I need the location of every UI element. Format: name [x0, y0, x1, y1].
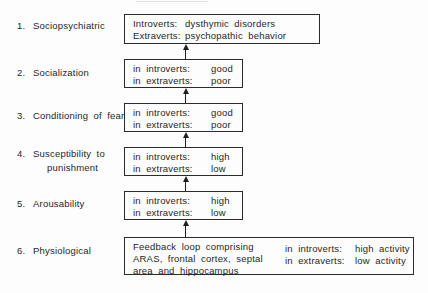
row-value: dysthymic disorders	[185, 18, 275, 30]
box-row: in introverts: high	[125, 195, 242, 207]
row-key: in extraverts:	[285, 255, 355, 267]
row-value: poor	[211, 75, 231, 87]
arrow-shaft	[185, 50, 186, 59]
box-row: Extraverts: psychopathic behavior	[125, 30, 319, 42]
row-key: in introverts:	[285, 243, 355, 255]
row-key: in extraverts:	[133, 119, 211, 131]
feedback-line: ARAS, frontal cortex, septal	[133, 253, 263, 265]
box-sociopsychiatric: Introverts: dysthymic disorders Extraver…	[124, 14, 320, 44]
box-conditioning-of-fear: in introverts: good in extraverts: poor	[124, 103, 243, 132]
level-number: 2.	[17, 67, 33, 79]
level-name: Physiological	[33, 245, 91, 257]
row-value: good	[211, 63, 233, 75]
row-key: in introverts:	[133, 151, 211, 163]
box-row: in introverts: high activity	[285, 243, 410, 255]
row-value: good	[211, 107, 233, 119]
level-name: Socialization	[33, 67, 89, 79]
arrow-shaft	[185, 94, 186, 103]
row-key: in introverts:	[133, 195, 211, 207]
box-row: in extraverts: poor	[125, 75, 242, 87]
cropped-rule-artifact	[136, 1, 208, 2]
row-value: low	[211, 207, 226, 219]
row-value: poor	[211, 119, 231, 131]
row-key: in extraverts:	[133, 163, 211, 175]
box-row: in extraverts: poor	[125, 119, 242, 131]
box-row: in introverts: good	[125, 63, 242, 75]
row-value: high	[211, 151, 230, 163]
box-row: in introverts: good	[125, 107, 242, 119]
box-physiological: Feedback loop comprising ARAS, frontal c…	[124, 237, 414, 275]
row-key: Extraverts:	[133, 30, 185, 42]
level-label-conditioning-of-fear: 3. Conditioning of fear	[17, 110, 124, 122]
row-key: in extraverts:	[133, 75, 211, 87]
box-arousability: in introverts: high in extraverts: low	[124, 191, 243, 220]
row-key: in introverts:	[133, 107, 211, 119]
row-value: high activity	[355, 243, 410, 255]
row-key: in introverts:	[133, 63, 211, 75]
level-label-physiological: 6. Physiological	[17, 245, 91, 257]
level-label-sociopsychiatric: 1. Sociopsychiatric	[17, 20, 105, 32]
level-label-socialization: 2. Socialization	[17, 67, 89, 79]
box-row: in extraverts: low	[125, 207, 242, 219]
box-susceptibility: in introverts: high in extraverts: low	[124, 147, 243, 176]
feedback-loop-text: Feedback loop comprising ARAS, frontal c…	[133, 241, 263, 277]
row-value: low	[211, 163, 226, 175]
up-arrow-icon	[182, 176, 189, 191]
level-name: Susceptibility to	[33, 148, 105, 160]
arrow-shaft	[185, 226, 186, 237]
level-label-susceptibility: 4. Susceptibility to	[17, 148, 105, 160]
box-row: in introverts: high	[125, 151, 242, 163]
level-label-arousability: 5. Arousability	[17, 198, 85, 210]
level-number: 1.	[17, 20, 33, 32]
up-arrow-icon	[182, 132, 189, 147]
row-value: low activity	[355, 255, 406, 267]
up-arrow-icon	[182, 88, 189, 103]
level-number: 5.	[17, 198, 33, 210]
level-label-susceptibility-line2: punishment	[47, 162, 98, 174]
feedback-line: Feedback loop comprising	[133, 241, 263, 253]
level-number: 3.	[17, 110, 33, 122]
level-number: 4.	[17, 148, 33, 160]
up-arrow-icon	[182, 220, 189, 237]
level-name: Sociopsychiatric	[33, 20, 105, 32]
arrow-shaft	[185, 182, 186, 191]
up-arrow-icon	[182, 44, 189, 59]
row-value: psychopathic behavior	[185, 30, 286, 42]
level-name: Arousability	[33, 198, 85, 210]
box-socialization: in introverts: good in extraverts: poor	[124, 59, 243, 88]
diagram-canvas: 1. Sociopsychiatric 2. Socialization 3. …	[0, 0, 428, 293]
level-number: 6.	[17, 245, 33, 257]
box-row: Introverts: dysthymic disorders	[125, 18, 319, 30]
feedback-line: area and hippocampus	[133, 265, 263, 277]
arrow-shaft	[185, 138, 186, 147]
row-value: high	[211, 195, 230, 207]
box-row: in extraverts: low	[125, 163, 242, 175]
row-key: in extraverts:	[133, 207, 211, 219]
box-row: in extraverts: low activity	[285, 255, 410, 267]
physiological-activity-rows: in introverts: high activity in extraver…	[285, 243, 410, 267]
level-name: Conditioning of fear	[33, 110, 124, 122]
row-key: Introverts:	[133, 18, 185, 30]
